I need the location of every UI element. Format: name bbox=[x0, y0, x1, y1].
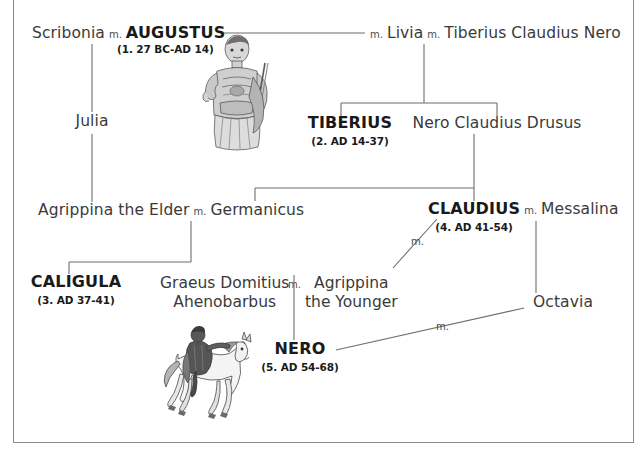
connector-lines bbox=[0, 0, 640, 451]
person-livia: Livia bbox=[387, 25, 423, 41]
marriage-symbol-livia-tcn: m bbox=[427, 30, 440, 41]
person-messalina: Messalina bbox=[541, 201, 618, 217]
person-julia: Julia bbox=[75, 113, 108, 129]
person-graeus-domitius-line2: Ahenobarbus bbox=[173, 293, 276, 311]
nero-horseback-illustration bbox=[158, 315, 268, 427]
node-graeus-domitius: Graeus Domitius Ahenobarbus bbox=[160, 274, 289, 313]
node-agrippina-elder-germanicus: Agrippina the Elder m Germanicus bbox=[38, 202, 304, 218]
marriage-symbol-scribonia-augustus: m bbox=[109, 30, 122, 41]
person-nero: NERO bbox=[274, 341, 325, 358]
node-livia-tiberius-claudius-nero: m Livia m Tiberius Claudius Nero bbox=[370, 25, 621, 41]
person-claudius: CLAUDIUS bbox=[428, 201, 520, 218]
marriage-symbol-agrippina-germanicus: m bbox=[193, 207, 206, 218]
person-agrippina-younger-line1: Agrippina bbox=[314, 274, 388, 292]
person-scribonia: Scribonia bbox=[32, 25, 105, 41]
node-agrippina-the-younger: Agrippina the Younger bbox=[305, 274, 398, 313]
marriage-symbol-nero-octavia: m bbox=[436, 322, 449, 333]
reign-tiberius: (2. AD 14-37) bbox=[311, 136, 388, 147]
node-claudius-messalina: CLAUDIUS m Messalina bbox=[428, 201, 619, 218]
person-graeus-domitius-line1: Graeus Domitius bbox=[160, 274, 289, 292]
person-tiberius-claudius-nero: Tiberius Claudius Nero bbox=[444, 25, 620, 41]
marriage-symbol-domitius-agrippina: m bbox=[288, 280, 301, 291]
person-agrippina-younger-line2: the Younger bbox=[305, 293, 398, 311]
person-germanicus: Germanicus bbox=[210, 202, 304, 218]
reign-nero: (5. AD 54-68) bbox=[261, 362, 338, 373]
marriage-symbol-claudius-agrippina-younger: m bbox=[411, 237, 424, 248]
person-octavia: Octavia bbox=[533, 294, 593, 310]
person-nero-claudius-drusus: Nero Claudius Drusus bbox=[412, 115, 581, 131]
person-tiberius: TIBERIUS bbox=[308, 115, 392, 132]
reign-caligula: (3. AD 37-41) bbox=[37, 295, 114, 306]
family-tree-diagram: Scribonia m AUGUSTUS (1. 27 BC-AD 14) m … bbox=[0, 0, 640, 451]
person-caligula: CALIGULA bbox=[31, 274, 122, 291]
person-agrippina-the-elder: Agrippina the Elder bbox=[38, 202, 189, 218]
augustus-statue-illustration bbox=[193, 33, 281, 151]
marriage-symbol-claudius-messalina: m bbox=[524, 206, 537, 217]
marriage-symbol-augustus-livia: m bbox=[370, 30, 383, 41]
line-nero-octavia bbox=[336, 308, 524, 350]
reign-claudius: (4. AD 41-54) bbox=[435, 222, 512, 233]
